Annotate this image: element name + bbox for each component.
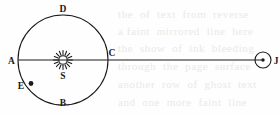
label-a: A xyxy=(8,56,15,66)
label-s-sun: S xyxy=(60,71,65,81)
label-d: D xyxy=(60,4,67,14)
orbit-diagram-figure: the of text from reverse a faint mirrore… xyxy=(0,0,279,116)
label-e: E xyxy=(18,81,24,91)
label-j-planet: J xyxy=(274,56,279,66)
label-c: C xyxy=(109,48,116,58)
point-e-dot xyxy=(29,81,34,86)
orbit-diagram-canvas: A B C D E S J xyxy=(0,0,279,116)
label-b: B xyxy=(60,98,67,108)
